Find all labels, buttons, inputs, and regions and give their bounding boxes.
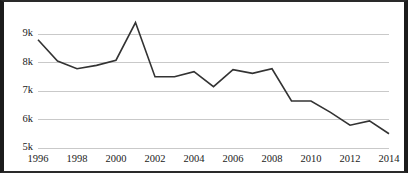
x-axis-tick-label: 2010 <box>301 153 322 164</box>
x-axis-tick-label: 1996 <box>28 153 49 164</box>
y-axis-tick-label: 9k <box>23 27 34 38</box>
x-axis-tick-label: 1998 <box>67 153 88 164</box>
y-axis-tick-label: 8k <box>23 56 34 67</box>
x-axis-tick-label: 2008 <box>262 153 283 164</box>
x-axis-tick-label: 2002 <box>145 153 166 164</box>
y-axis-tick-label: 7k <box>23 84 34 95</box>
x-axis-tick-label: 2000 <box>106 153 127 164</box>
x-axis-tick-label: 2014 <box>379 153 401 164</box>
chart-container: 5k6k7k8k9k199619982000200220042006200820… <box>0 0 408 173</box>
x-axis-tick-label: 2004 <box>184 153 206 164</box>
x-axis-tick-label: 2012 <box>340 153 361 164</box>
y-axis-tick-label: 6k <box>23 113 34 124</box>
line-chart-plot: 5k6k7k8k9k199619982000200220042006200820… <box>4 2 404 171</box>
data-series-line <box>38 23 389 134</box>
y-axis-tick-label: 5k <box>23 141 34 152</box>
x-axis-tick-label: 2006 <box>223 153 244 164</box>
